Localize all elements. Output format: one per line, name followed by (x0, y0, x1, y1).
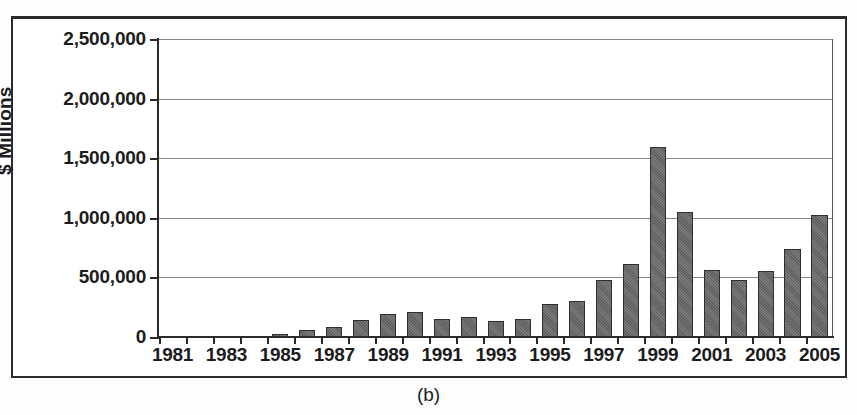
x-tick-mark-2004 (779, 337, 781, 344)
x-tick-mark-1984 (240, 337, 242, 344)
x-tick-mark-1992 (456, 337, 458, 344)
x-axis-line (157, 336, 834, 338)
x-tick-mark-1987 (321, 337, 323, 344)
bars-layer (159, 39, 833, 337)
bar-2003 (758, 271, 774, 337)
x-tick-mark-1981 (159, 337, 161, 344)
figure-caption: (b) (0, 384, 857, 406)
y-tick-mark-1000000 (150, 218, 159, 220)
x-tick-label-1997: 1997 (583, 344, 624, 366)
x-tick-mark-1982 (186, 337, 188, 344)
x-tick-mark-1989 (375, 337, 377, 344)
y-tick-label-500000: 500,000 (79, 266, 146, 288)
bar-1993 (488, 321, 504, 337)
bar-1999 (650, 147, 666, 337)
x-tick-mark-1993 (483, 337, 485, 344)
x-tick-label-2003: 2003 (745, 344, 786, 366)
x-tick-mark-2003 (752, 337, 754, 344)
x-tick-mark-2000 (671, 337, 673, 344)
x-tick-label-1987: 1987 (314, 344, 355, 366)
y-tick-label-1000000: 1,000,000 (63, 207, 146, 229)
x-tick-label-1999: 1999 (637, 344, 678, 366)
y-tick-mark-0 (150, 337, 159, 339)
y-axis-title: $ Millions (0, 86, 16, 175)
bar-1991 (434, 319, 450, 337)
y-tick-label-1500000: 1,500,000 (63, 147, 146, 169)
x-tick-mark-1990 (402, 337, 404, 344)
x-tick-mark-1985 (267, 337, 269, 344)
x-tick-mark-1991 (429, 337, 431, 344)
x-tick-label-1995: 1995 (529, 344, 570, 366)
x-tick-label-2005: 2005 (799, 344, 840, 366)
y-tick-mark-500000 (150, 277, 159, 279)
x-tick-mark-1999 (644, 337, 646, 344)
bar-2002 (731, 280, 747, 337)
x-tick-label-1991: 1991 (422, 344, 463, 366)
bar-2004 (784, 249, 800, 337)
bar-2001 (704, 270, 720, 337)
x-tick-mark-1994 (509, 337, 511, 344)
y-tick-mark-1500000 (150, 158, 159, 160)
y-tick-label-0: 0 (136, 326, 146, 348)
bar-1994 (515, 319, 531, 337)
bar-1989 (380, 314, 396, 337)
x-tick-mark-2005 (806, 337, 808, 344)
figure-panel-b: 0500,0001,000,0001,500,0002,000,0002,500… (0, 0, 857, 415)
x-tick-mark-1995 (536, 337, 538, 344)
y-axis-line (157, 38, 159, 338)
y-tick-labels: 0500,0001,000,0001,500,0002,000,0002,500… (0, 0, 146, 415)
x-tick-label-2001: 2001 (691, 344, 732, 366)
y-tick-label-2000000: 2,000,000 (63, 88, 146, 110)
bar-1988 (353, 320, 369, 337)
x-tick-mark-1996 (563, 337, 565, 344)
x-tick-mark-1997 (590, 337, 592, 344)
y-tick-label-2500000: 2,500,000 (63, 28, 146, 50)
bar-1995 (542, 304, 558, 337)
x-tick-label-1981: 1981 (152, 344, 193, 366)
x-tick-label-1985: 1985 (260, 344, 301, 366)
bar-1990 (407, 312, 423, 337)
y-tick-mark-2500000 (150, 39, 159, 41)
bar-1996 (569, 301, 585, 337)
x-tick-label-1989: 1989 (368, 344, 409, 366)
x-tick-mark-2001 (698, 337, 700, 344)
x-tick-mark-1998 (617, 337, 619, 344)
x-tick-mark-1988 (348, 337, 350, 344)
x-tick-mark-2002 (725, 337, 727, 344)
bar-2000 (677, 212, 693, 337)
x-tick-label-1983: 1983 (206, 344, 247, 366)
x-tick-label-1993: 1993 (475, 344, 516, 366)
bar-2005 (811, 215, 827, 337)
x-tick-mark-1983 (213, 337, 215, 344)
bar-1992 (461, 317, 477, 337)
x-tick-mark-1986 (294, 337, 296, 344)
bar-1998 (623, 264, 639, 337)
y-tick-mark-2000000 (150, 99, 159, 101)
bar-1997 (596, 280, 612, 337)
